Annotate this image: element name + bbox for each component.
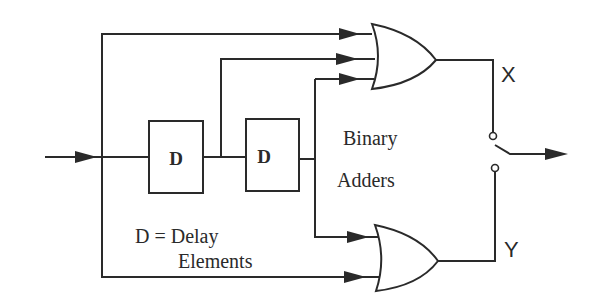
legend-label-line1: D = Delay <box>135 225 218 248</box>
output-arrow-icon <box>545 148 568 160</box>
gate-2-input-arrows <box>344 231 369 283</box>
arrow-right-icon <box>339 28 360 40</box>
switch-contact-x <box>490 133 497 140</box>
binary-adders-label-line1: Binary <box>343 127 397 150</box>
switch-contact-y <box>492 165 499 172</box>
arrow-right-icon <box>339 73 360 85</box>
arrow-right-icon <box>344 271 366 283</box>
gate-output-wires <box>436 60 495 261</box>
output-y-label: Y <box>504 237 519 262</box>
input-signal <box>45 151 149 163</box>
lower-adder-gate <box>375 225 438 291</box>
delay-adder-diagram: D D X Y Binar <box>0 0 595 308</box>
upper-adder-gate <box>372 24 436 89</box>
delay-2-output-wires <box>299 79 378 237</box>
legend-label-line2: Elements <box>178 250 253 272</box>
binary-adders-label-line2: Adders <box>337 169 395 191</box>
gate-1-input-arrows <box>336 28 360 85</box>
delay-element-2: D <box>246 119 299 191</box>
arrow-right-icon <box>347 231 369 243</box>
delay-element-2-label: D <box>257 146 271 167</box>
delay-element-1-label: D <box>169 148 183 169</box>
input-arrow-icon <box>75 151 97 163</box>
delay-element-1: D <box>149 121 203 193</box>
output-switch <box>490 133 569 172</box>
arrow-right-icon <box>336 53 358 65</box>
output-x-label: X <box>501 62 516 87</box>
